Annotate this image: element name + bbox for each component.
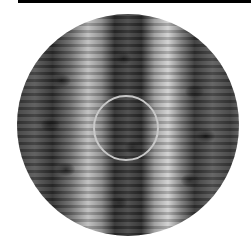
highlight-circle	[93, 95, 159, 161]
top-bar	[18, 0, 251, 3]
